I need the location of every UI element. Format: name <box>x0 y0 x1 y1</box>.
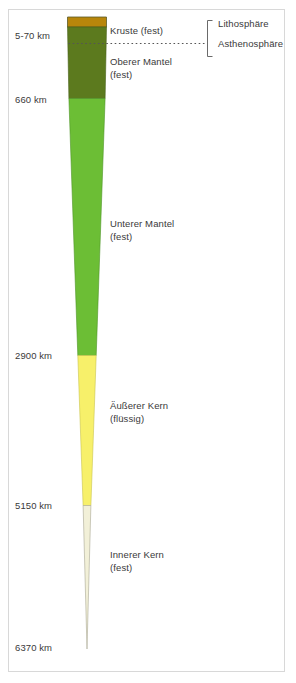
layer-label-lower-mantle-line1: Unterer Mantel <box>110 217 174 230</box>
layer-label-outer-core-line1: Äußerer Kern <box>110 399 168 412</box>
layer-label-lower-mantle: Unterer Mantel (fest) <box>110 217 174 243</box>
depth-label-5150: 5150 km <box>15 500 52 511</box>
label-lithosphere: Lithosphäre <box>218 18 269 29</box>
layer-label-outer-core-line2: (flüssig) <box>110 412 168 425</box>
layer-label-crust: Kruste (fest) <box>110 24 163 37</box>
depth-label-2900: 2900 km <box>15 350 52 361</box>
label-asthenosphere: Asthenosphäre <box>218 38 283 49</box>
depth-label-660: 660 km <box>15 94 47 105</box>
layer-label-inner-core: Innerer Kern (fest) <box>110 548 164 574</box>
layer-shape-lower-mantle <box>69 99 105 356</box>
layer-shape-outer-core <box>78 356 96 506</box>
layer-label-upper-mantle-line1: Oberer Mantel <box>110 55 172 68</box>
layer-shape-crust <box>68 17 107 27</box>
layer-shape-inner-core <box>83 506 91 650</box>
layer-label-inner-core-line2: (fest) <box>110 561 164 574</box>
layer-label-upper-mantle-line2: (fest) <box>110 68 172 81</box>
layer-shape-upper-mantle <box>68 27 107 99</box>
depth-label-crust: 5-70 km <box>15 30 50 41</box>
layer-label-upper-mantle: Oberer Mantel (fest) <box>110 55 172 81</box>
earth-structure-figure: 5-70 km 660 km 2900 km 5150 km 6370 km K… <box>0 0 296 683</box>
layer-label-outer-core: Äußerer Kern (flüssig) <box>110 399 168 425</box>
layer-label-lower-mantle-line2: (fest) <box>110 230 174 243</box>
depth-label-6370: 6370 km <box>15 642 52 653</box>
mechanical-layers-bracket <box>208 21 213 57</box>
layer-label-inner-core-line1: Innerer Kern <box>110 548 164 561</box>
